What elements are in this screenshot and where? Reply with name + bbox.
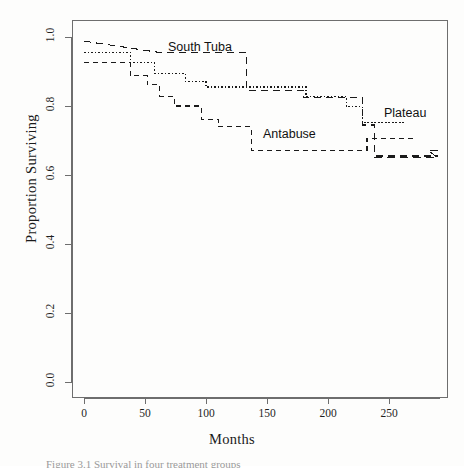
x-tick-200 (328, 398, 329, 404)
y-axis-line (71, 37, 72, 383)
x-ticklabel-0: 0 (64, 407, 104, 419)
x-tick-250 (389, 398, 390, 404)
series-label-south-tuba: South Tuba (168, 40, 232, 54)
x-tick-0 (84, 398, 85, 404)
x-ticklabel-200: 200 (308, 407, 348, 419)
y-ticklabel-0.2: 0.2 (44, 299, 56, 323)
x-axis-line (84, 398, 440, 399)
y-ticklabel-0.4: 0.4 (44, 230, 56, 254)
y-tick-0.6 (65, 175, 71, 176)
x-tick-150 (267, 398, 268, 404)
plot-area (72, 20, 448, 398)
y-tick-0.4 (65, 244, 71, 245)
figure-caption: Figure 3.1 Survival in four treatment gr… (46, 458, 464, 468)
y-tick-0.8 (65, 106, 71, 107)
x-tick-100 (206, 398, 207, 404)
x-ticklabel-100: 100 (186, 407, 226, 419)
y-tick-1.0 (65, 37, 71, 38)
series-label-antabuse: Antabuse (263, 127, 316, 141)
y-ticklabel-0.8: 0.8 (44, 92, 56, 116)
y-ticklabel-0.6: 0.6 (44, 161, 56, 185)
y-axis-title: Proportion Surviving (23, 69, 40, 289)
x-ticklabel-250: 250 (369, 407, 409, 419)
x-tick-50 (145, 398, 146, 404)
y-tick-0.2 (65, 313, 71, 314)
series-label-plateau: Plateau (384, 106, 426, 120)
x-axis-title: Months (0, 431, 464, 448)
y-ticklabel-0.0: 0.0 (44, 368, 56, 392)
x-ticklabel-150: 150 (247, 407, 287, 419)
y-tick-0.0 (65, 382, 71, 383)
y-ticklabel-1.0: 1.0 (44, 23, 56, 47)
x-ticklabel-50: 50 (125, 407, 165, 419)
